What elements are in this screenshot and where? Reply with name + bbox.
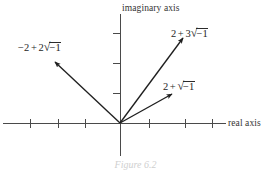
vector-c-radical: 2√−1 [38, 41, 61, 53]
vector-arrow-2-plus-i [120, 94, 172, 123]
vector-a-operator: + [176, 28, 185, 39]
vector-c-operator: + [29, 42, 38, 53]
vector-b-radical: √−1 [177, 80, 195, 92]
vector-c-real-part: −2 [18, 42, 29, 53]
imaginary-axis-label: imaginary axis [122, 4, 180, 14]
complex-plane-figure: imaginary axis real axis 2+3√−1 2+√−1 −2… [0, 0, 271, 171]
vector-label-2-plus-3i: 2+3√−1 [171, 27, 208, 39]
figure-caption: Figure 6.2 [0, 159, 271, 171]
plot-canvas [0, 0, 271, 171]
vector-label-2-plus-i: 2+√−1 [163, 80, 195, 92]
vector-a-radical: 3√−1 [185, 27, 208, 39]
vector-b-operator: + [168, 81, 177, 92]
vector-label-minus2-plus-2i: −2+2√−1 [18, 41, 61, 53]
vector-b-radicand: −1 [183, 81, 195, 93]
vector-arrow-minus2-plus-2i [55, 62, 120, 123]
vector-c-radicand: −1 [49, 42, 61, 54]
real-axis-label: real axis [228, 119, 261, 129]
vector-a-radicand: −1 [196, 28, 208, 40]
